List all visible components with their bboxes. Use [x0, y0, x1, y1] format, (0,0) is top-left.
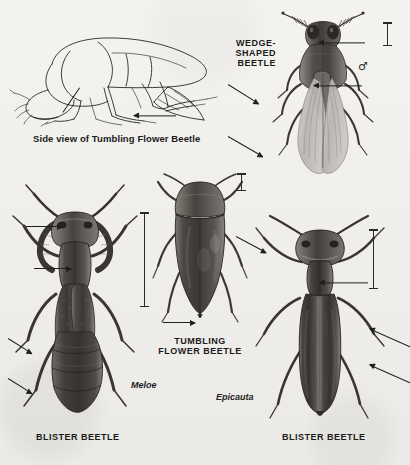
- scale-bar-stem: [144, 214, 146, 306]
- caption-wedge-shaped-beetle: WEDGE- SHAPED BEETLE: [228, 38, 276, 68]
- male-sex-symbol: ♂: [358, 60, 368, 73]
- scale-bar-cap-bottom: [140, 306, 149, 308]
- scale-bar-blister-beetle-epicauta: [369, 229, 378, 289]
- caption-blister-beetle-left: BLISTER BEETLE: [36, 432, 120, 442]
- side-view-tumbling-flower-beetle-figure: [8, 18, 223, 133]
- caption-side-view: Side view of Tumbling Flower Beetle: [33, 134, 201, 145]
- pointer-wedge-body-upper: [228, 84, 259, 104]
- pointer-epicauta-pronotum: [320, 282, 368, 283]
- scale-bar-cap-bottom: [369, 288, 378, 290]
- caption-tumbling-flower-beetle: TUMBLING FLOWER BEETLE: [152, 336, 248, 356]
- pointer-wedge-elytron: [314, 85, 362, 86]
- caption-blister-beetle-right: BLISTER BEETLE: [282, 432, 366, 442]
- pointer-side-view-abdomen: [134, 115, 176, 116]
- genus-label-epicauta: Epicauta: [216, 392, 254, 402]
- pointer-meloe-head: [26, 226, 62, 227]
- scale-bar-cap-bottom: [383, 45, 392, 47]
- scale-bar-cap-bottom: [237, 190, 246, 192]
- scale-bar-stem: [387, 24, 389, 45]
- scale-bar-stem: [373, 231, 375, 288]
- scale-bar-wedge-shaped-beetle: [383, 22, 392, 46]
- wedge-shaped-beetle-figure: [268, 8, 378, 178]
- scale-bar-tumbling-flower-beetle: [237, 173, 246, 191]
- scale-bar-blister-beetle-meloe: [140, 212, 149, 307]
- pointer-meloe-pronotum: [34, 268, 71, 269]
- pointer-wedge-antenna: [319, 42, 365, 43]
- scale-bar-stem: [241, 175, 243, 190]
- pointer-tumbling-flower-abdomen-tip: [163, 322, 195, 323]
- pointer-wedge-wing: [228, 136, 263, 157]
- illustration-plate: Side view of Tumbling Flower Beetle: [0, 0, 410, 465]
- tumbling-flower-beetle-figure: [152, 168, 248, 326]
- genus-label-meloe: Meloe: [131, 380, 157, 390]
